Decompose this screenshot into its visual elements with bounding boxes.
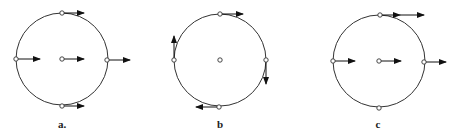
point-bottom [60,104,64,108]
point-right [422,60,426,64]
point-left [331,59,335,63]
panel-a-translation: a. [14,11,130,130]
panel-label-b: b [217,118,223,130]
wheel-motion-diagram: a. b c [0,0,459,137]
point-left [14,57,18,61]
diagram-canvas: a. b c [0,0,459,137]
point-right [105,58,109,62]
panel-label-a: a. [58,118,67,130]
point-top [218,12,222,16]
point-center [60,57,64,61]
point-center [218,58,222,62]
point-center [377,59,381,63]
point-bottom-contact [377,106,381,110]
panel-label-c: c [376,118,381,130]
point-bottom [217,105,221,109]
point-top [378,13,382,17]
point-left [172,58,176,62]
point-right [264,58,268,62]
panel-c-rolling: c [331,13,446,130]
panel-b-rotation: b [172,12,268,130]
point-top [60,11,64,15]
